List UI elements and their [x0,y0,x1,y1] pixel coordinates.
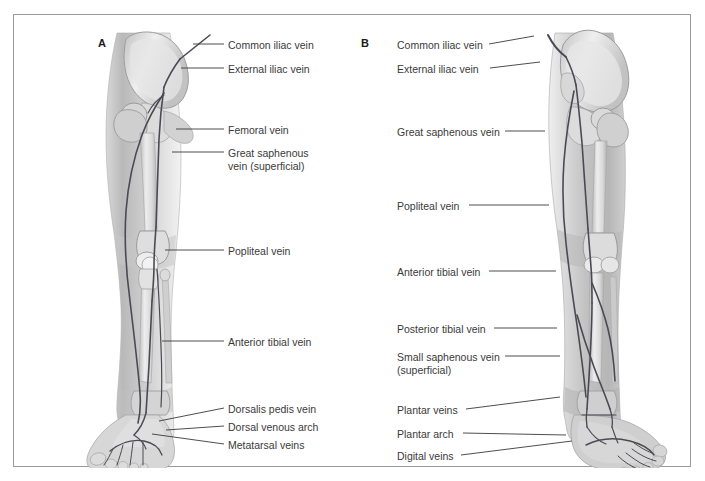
label-popliteal-vein: Popliteal vein [228,245,290,258]
label-anterior-tibial-vein: Anterior tibial vein [228,336,311,349]
leg-illustrations [14,15,692,468]
label-metatarsal-veins: Metatarsal veins [228,439,304,452]
label-common-iliac-vein: Common iliac vein [228,39,314,52]
panel-letter-b: B [361,37,369,49]
label-femoral-vein: Femoral vein [228,124,289,137]
label-posterior-tibial-vein: Posterior tibial vein [397,323,486,336]
label-popliteal-vein: Popliteal vein [397,200,459,213]
anatomy-figure: A B Common iliac veinExternal iliac vein… [0,0,705,481]
leg-posterior [548,30,669,468]
label-common-iliac-vein: Common iliac vein [397,39,483,52]
label-dorsal-venous-arch: Dorsal venous arch [228,421,318,434]
label-dorsalis-pedis-vein: Dorsalis pedis vein [228,403,316,416]
leg-anterior [87,32,210,468]
label-great-saphenous-vein: Great saphenous vein (superficial) [228,147,309,172]
label-great-saphenous-vein: Great saphenous vein [397,126,500,139]
panel-letter-a: A [98,37,106,49]
label-digital-veins: Digital veins [397,450,454,463]
label-anterior-tibial-vein: Anterior tibial vein [397,266,480,279]
label-small-saphenous-vein: Small saphenous vein (superficial) [397,351,500,376]
figure-frame: A B Common iliac veinExternal iliac vein… [13,14,691,467]
label-plantar-arch: Plantar arch [397,428,454,441]
label-external-iliac-vein: External iliac vein [397,63,479,76]
label-plantar-veins: Plantar veins [397,404,458,417]
label-external-iliac-vein: External iliac vein [228,63,310,76]
